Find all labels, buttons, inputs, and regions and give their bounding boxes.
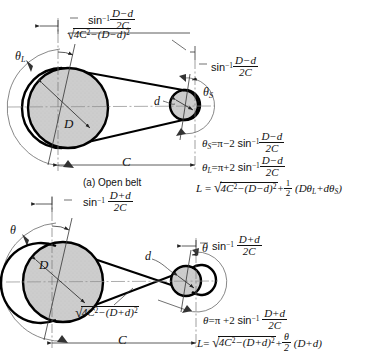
large-pulley-open xyxy=(28,68,108,148)
arcsin-label-left-crossed: sin−1 D+d2C xyxy=(83,190,133,213)
arcsin-angle-arc-small-open xyxy=(192,79,195,80)
d-label-crossed: d xyxy=(145,250,151,262)
arcsin-angle-arc-small-crossed xyxy=(192,254,196,255)
span-label-crossed: 4C2−(D+d)2 xyxy=(75,306,139,318)
theta-label-large-crossed: θ xyxy=(10,224,16,236)
equation-theta-l: θL=π+2 sin−1D−d2C xyxy=(202,155,285,178)
arcsin-label-right-crossed: sin−1 D+d2C xyxy=(212,234,262,257)
D-label-crossed: D xyxy=(39,258,48,271)
C-label-crossed: C xyxy=(118,333,127,346)
theta-l-label: θL xyxy=(15,50,25,64)
C-label-open: C xyxy=(122,155,131,168)
span-label-open: 4C2−(D−d)2 xyxy=(67,28,131,40)
equation-theta-s: θS=π−2 sin−1D−d2C xyxy=(202,131,284,154)
d-label-open: d xyxy=(154,95,160,107)
open-belt-diagram xyxy=(7,18,215,172)
arcsin-angle-arc-large-crossed xyxy=(52,226,69,230)
arcsin-angle-arc-large-open xyxy=(58,52,73,55)
caption-open-belt: (a) Open belt xyxy=(83,178,141,188)
arcsin-label-right-open: sin−1D−d2C xyxy=(211,55,258,78)
equation-theta-crossed: θ=π +2 sin−1 D+d2C xyxy=(203,308,287,331)
equation-length-open: L = 4C2−(D−d)2+12 (DθL+dθS) xyxy=(196,179,342,198)
span-label-leader-open xyxy=(172,40,186,50)
d-leader-crossed xyxy=(152,259,176,275)
theta-s-label: θS xyxy=(203,86,213,100)
theta-label-small-crossed: θ xyxy=(202,242,208,254)
D-label-open: D xyxy=(64,117,73,130)
crossed-belt-diagram xyxy=(1,196,227,348)
equation-length-crossed: L= 4C2−(D+d)2+θ2 (D+d) xyxy=(197,332,322,353)
